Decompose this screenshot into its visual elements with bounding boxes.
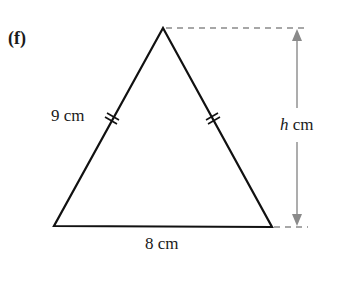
side-length-label: 9 cm xyxy=(51,107,85,124)
height-label: h cm xyxy=(280,116,314,133)
arrowhead-up-icon xyxy=(292,29,302,41)
isosceles-triangle xyxy=(54,28,272,227)
base-length-label: 8 cm xyxy=(145,235,179,252)
figure-canvas: (f) 9 cm 8 cm h cm xyxy=(0,0,340,282)
height-unit: cm xyxy=(293,115,314,134)
height-variable: h xyxy=(280,115,289,134)
part-label: (f) xyxy=(8,29,26,47)
arrowhead-down-icon xyxy=(292,214,302,226)
